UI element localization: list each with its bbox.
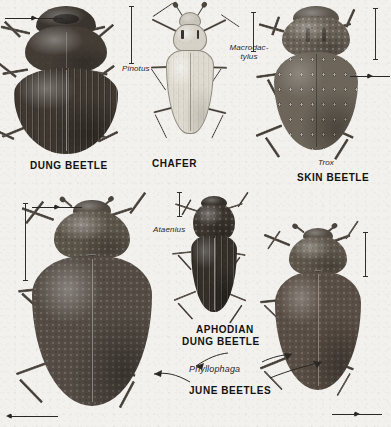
aphodian-elytra: [191, 236, 237, 312]
scale-bar-skin-beetle: [372, 8, 379, 60]
aphodian-label-line2: DUNG BEETLE: [182, 336, 260, 347]
pointer-arrow-june-beetle-right-leg: [332, 410, 382, 417]
june-beetle-left-pronotum: [54, 210, 130, 258]
beetle-identification-plate: DUNG BEETLE Pinotus: [0, 0, 391, 427]
skin-beetle-label: SKIN BEETLE: [297, 172, 369, 183]
specimen-june-beetle-left: [28, 200, 156, 412]
specimen-aphodian-dung-beetle: [186, 196, 242, 318]
june-beetle-left-elytra: [32, 256, 152, 406]
chafer-genus-label: Macrodac- tylus: [228, 44, 270, 61]
specimen-chafer: [155, 10, 225, 150]
chafer-genus-line2: tylus: [240, 52, 257, 61]
pointer-arrow-june-beetle-left-head: [32, 203, 82, 210]
scale-bar-dung-beetle: [128, 6, 135, 64]
pointer-arrow-dung-beetle-head: [5, 14, 63, 21]
june-beetle-right-pronotum: [289, 236, 347, 274]
scale-bar-june-beetle-right: [362, 232, 369, 277]
scale-bar-june-beetle-left: [22, 203, 29, 281]
june-beetles-genus-label: Phyllophaga: [189, 364, 240, 374]
pointer-arrow-skin-beetle-leg: [350, 72, 390, 79]
june-beetles-label: JUNE BEETLES: [189, 385, 271, 396]
chafer-label: CHAFER: [152, 158, 197, 169]
dung-beetle-elytra: [14, 68, 118, 154]
dung-beetle-genus-label: Pinotus: [122, 64, 150, 73]
chafer-elytra: [166, 50, 214, 134]
dung-beetle-pronotum: [25, 26, 107, 72]
skin-beetle-elytra: [274, 52, 358, 150]
chafer-pronotum: [173, 24, 207, 52]
dung-beetle-label: DUNG BEETLE: [30, 160, 108, 171]
skin-beetle-pronotum: [282, 16, 350, 56]
specimen-dung-beetle: [14, 6, 118, 156]
specimen-skin-beetle: [268, 6, 364, 158]
pointer-arrow-june-beetle-left-tarsus: [10, 412, 58, 419]
aphodian-label-line1: APHODIAN: [196, 324, 254, 335]
scale-bar-aphodian: [176, 192, 183, 217]
skin-beetle-genus-label: Trox: [318, 158, 334, 167]
aphodian-pronotum: [193, 204, 235, 238]
june-beetles-leader-lines: [150, 352, 350, 408]
aphodian-genus-label: Ataenius: [153, 225, 185, 234]
